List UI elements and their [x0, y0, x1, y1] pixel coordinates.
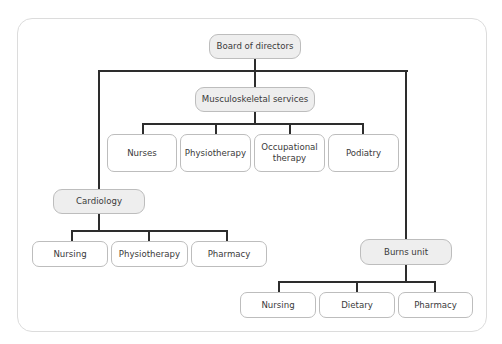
connector-burns-down: [405, 265, 407, 282]
connector-board-down: [254, 59, 256, 88]
connector-msk-c2: [215, 123, 217, 134]
node-cardio-pharmacy: Pharmacy: [191, 241, 267, 267]
connector-msk-c4: [362, 123, 364, 134]
node-burns-unit: Burns unit: [360, 239, 452, 265]
node-msk-nurses: Nurses: [107, 134, 177, 172]
node-msk-podiatry: Podiatry: [328, 134, 399, 172]
connector-cardio-down: [98, 214, 100, 231]
connector-cardio-c2: [148, 230, 150, 241]
connector-left-trunk: [98, 70, 100, 190]
node-cardio-nursing: Nursing: [32, 241, 108, 267]
connector-burns-c2: [356, 281, 358, 292]
node-burns-dietary: Dietary: [319, 292, 395, 318]
node-burns-nursing: Nursing: [240, 292, 316, 318]
connector-cardio-c1: [71, 230, 73, 241]
connector-burns-c3: [434, 281, 436, 292]
diagram-frame: [17, 18, 487, 332]
connector-cardio-c3: [226, 230, 228, 241]
node-musculoskeletal-services: Musculoskeletal services: [195, 87, 315, 112]
node-board-of-directors: Board of directors: [209, 34, 301, 59]
node-msk-physiotherapy: Physiotherapy: [180, 134, 251, 172]
connector-msk-bar: [142, 123, 364, 125]
node-burns-pharmacy: Pharmacy: [398, 292, 473, 318]
connector-right-trunk: [405, 70, 407, 240]
node-cardiology: Cardiology: [53, 189, 145, 214]
connector-top-bar: [98, 70, 408, 72]
node-cardio-physiotherapy: Physiotherapy: [111, 241, 188, 267]
connector-burns-c1: [278, 281, 280, 292]
connector-msk-c3: [289, 123, 291, 134]
connector-msk-c1: [142, 123, 144, 134]
node-msk-occupational-therapy: Occupational therapy: [254, 134, 325, 172]
